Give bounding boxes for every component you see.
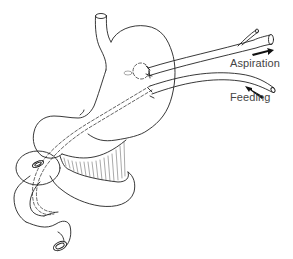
internal-tube-path	[32, 86, 152, 215]
diagram-svg	[0, 0, 293, 259]
feeding-label: Feeding	[230, 91, 270, 103]
aspiration-label: Aspiration	[230, 57, 280, 69]
duodenum	[14, 151, 135, 253]
esophagus	[95, 14, 111, 71]
stomach	[33, 26, 175, 159]
aspiration-arrow-icon	[252, 48, 274, 56]
stomach-diagram: Aspiration Feeding	[0, 0, 293, 259]
balloon	[124, 63, 149, 79]
omentum-hatching	[62, 140, 126, 181]
